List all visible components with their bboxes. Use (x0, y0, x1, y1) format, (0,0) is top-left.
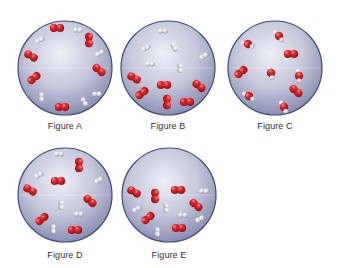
figure-b-label: Figure B (128, 121, 208, 131)
figure-e-sphere (122, 148, 216, 242)
figure-a-sphere (18, 21, 112, 115)
figure-d-sphere (18, 148, 112, 242)
figure-d-label: Figure D (25, 250, 105, 260)
figure-c-label: Figure C (235, 121, 315, 131)
figures-canvas (0, 0, 337, 268)
molecule-figures-diagram: Figure A Figure B Figure C Figure D Figu… (0, 0, 337, 268)
figure-e-label: Figure E (129, 250, 209, 260)
figure-c-sphere (228, 21, 322, 115)
figure-a-label: Figure A (25, 121, 105, 131)
figure-b-sphere (121, 21, 215, 115)
